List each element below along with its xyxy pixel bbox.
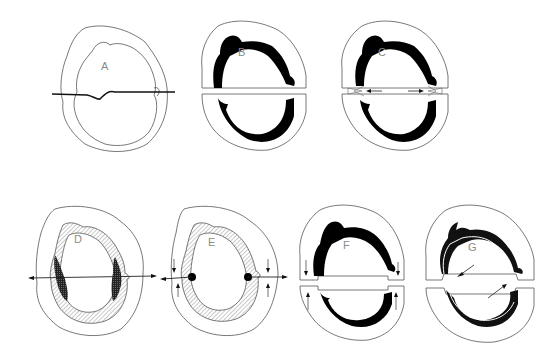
panel-d-drawing bbox=[25, 203, 160, 343]
panel-e-drawing bbox=[162, 203, 297, 343]
panel-f-drawing bbox=[298, 200, 418, 345]
panel-d: D bbox=[25, 203, 160, 343]
panel-f: F bbox=[298, 200, 418, 345]
panel-b: B bbox=[198, 16, 308, 156]
panel-e: E bbox=[162, 203, 297, 343]
panel-label-a: A bbox=[101, 60, 108, 72]
panel-label-f: F bbox=[343, 239, 350, 251]
panel-c: C bbox=[340, 16, 450, 156]
panel-a-drawing bbox=[55, 20, 175, 160]
panel-g-drawing bbox=[424, 200, 544, 345]
panel-a: A bbox=[55, 20, 175, 160]
panel-label-g: G bbox=[468, 241, 477, 253]
panel-label-b: B bbox=[238, 46, 245, 58]
panel-g: G bbox=[424, 200, 544, 345]
panel-label-c: C bbox=[378, 46, 386, 58]
panel-label-e: E bbox=[208, 236, 215, 248]
panel-b-drawing bbox=[198, 16, 308, 156]
panel-label-d: D bbox=[74, 233, 82, 245]
panel-c-drawing bbox=[340, 16, 450, 156]
